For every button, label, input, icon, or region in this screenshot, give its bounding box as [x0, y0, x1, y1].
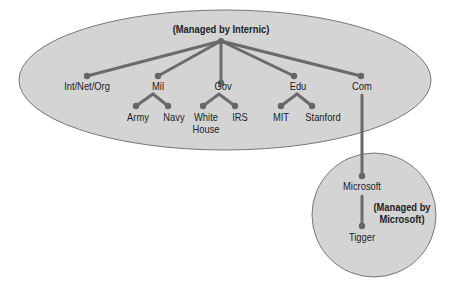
node-tigger: Tigger: [341, 231, 384, 243]
node-edu: Edu: [281, 80, 315, 92]
node-mit: MIT: [268, 111, 294, 123]
microsoft-zone-line2: Microsoft): [379, 213, 424, 225]
node-com: Com: [345, 80, 379, 92]
node-gov: Gov: [206, 80, 240, 92]
node-microsoft: Microsoft: [337, 180, 388, 192]
node-mil: Mil: [141, 80, 175, 92]
node-white-house: White House: [191, 111, 222, 135]
root-label: (Managed by Internic): [161, 23, 282, 35]
node-stanford: Stanford: [302, 111, 345, 123]
white-house-line1: White: [194, 111, 218, 123]
white-house-line2: House: [192, 123, 219, 135]
microsoft-zone-line1: (Managed by: [373, 201, 430, 213]
diagram-canvas: [0, 0, 455, 287]
node-int: Int/Net/Org: [57, 80, 117, 92]
microsoft-zone-label: (Managed by Microsoft): [371, 201, 432, 225]
node-irs: IRS: [227, 111, 253, 123]
node-army: Army: [121, 111, 155, 123]
node-navy: Navy: [157, 111, 191, 123]
